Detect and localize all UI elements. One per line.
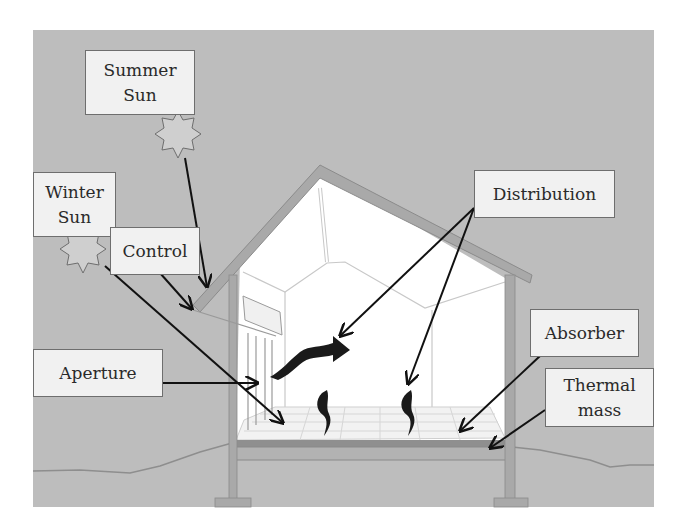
label-aperture-text: Aperture bbox=[59, 361, 136, 386]
label-absorber-text: Absorber bbox=[545, 321, 624, 346]
label-winter-sun-text: Winter Sun bbox=[45, 180, 104, 230]
label-control: Control bbox=[110, 227, 200, 275]
label-thermal-mass-text: Thermal mass bbox=[563, 373, 635, 423]
label-distribution: Distribution bbox=[474, 170, 615, 218]
label-absorber: Absorber bbox=[530, 309, 639, 357]
thermal-mass-slab bbox=[236, 440, 508, 447]
label-thermal-mass: Thermal mass bbox=[545, 368, 654, 427]
label-distribution-text: Distribution bbox=[493, 182, 596, 207]
label-winter-sun: Winter Sun bbox=[33, 172, 116, 237]
left-wall-post bbox=[229, 275, 237, 500]
label-summer-sun: Summer Sun bbox=[85, 50, 195, 115]
label-aperture: Aperture bbox=[33, 349, 163, 397]
passive-solar-diagram: Summer Sun Winter Sun Control Distributi… bbox=[0, 0, 686, 532]
label-control-text: Control bbox=[123, 239, 188, 264]
label-summer-sun-text: Summer Sun bbox=[103, 58, 176, 108]
